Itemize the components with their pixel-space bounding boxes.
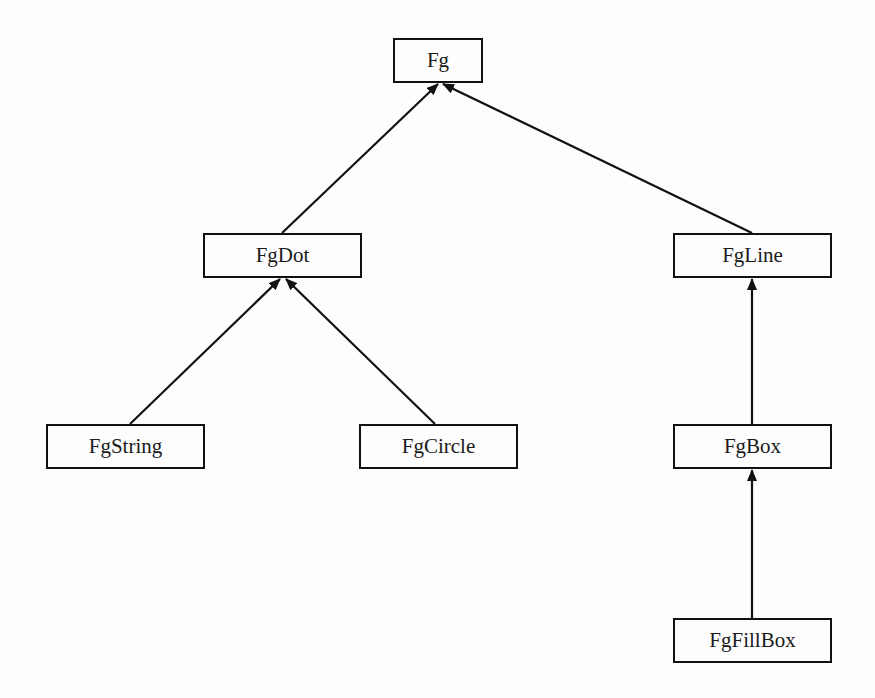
node-label-fgcircle: FgCircle <box>402 434 476 459</box>
edge-fgcircle-to-fgdot <box>286 279 435 424</box>
node-fgline: FgLine <box>673 233 832 278</box>
inheritance-edges <box>0 0 875 698</box>
node-fgbox: FgBox <box>673 424 832 469</box>
node-fgcircle: FgCircle <box>359 424 518 469</box>
edge-fgdot-to-fg <box>282 84 438 233</box>
node-label-fgfillbox: FgFillBox <box>709 628 795 653</box>
node-label-fg: Fg <box>427 48 449 73</box>
node-fgstring: FgString <box>46 424 205 469</box>
node-label-fgdot: FgDot <box>256 243 310 268</box>
node-label-fgbox: FgBox <box>724 434 781 459</box>
edge-fgstring-to-fgdot <box>130 279 280 424</box>
node-fgfillbox: FgFillBox <box>673 618 832 663</box>
node-label-fgline: FgLine <box>722 243 783 268</box>
node-fg: Fg <box>393 38 483 83</box>
edge-fgline-to-fg <box>443 84 752 233</box>
node-fgdot: FgDot <box>203 233 362 278</box>
node-label-fgstring: FgString <box>89 434 163 459</box>
